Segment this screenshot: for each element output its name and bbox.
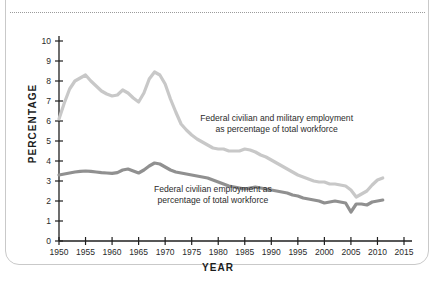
x-tick-label: 1955 [76,247,95,257]
y-tick-label: 1 [46,216,51,226]
x-axis-title: YEAR [0,262,436,273]
x-tick-label: 1980 [209,247,228,257]
y-tick-label: 0 [46,236,51,246]
chart-plot-area: 0123456789101950195519601965197019751980… [0,0,436,289]
x-tick-label: 1975 [182,247,201,257]
x-tick-label: 2005 [341,247,360,257]
series-line-total [59,72,383,197]
x-tick-label: 2010 [368,247,387,257]
y-tick-label: 6 [46,116,51,126]
y-axis-title: PERCENTAGE [27,64,38,184]
x-tick-label: 1970 [156,247,175,257]
y-tick-label: 8 [46,76,51,86]
x-tick-label: 1965 [129,247,148,257]
x-tick-label: 2000 [315,247,334,257]
y-tick-label: 7 [46,96,51,106]
x-tick-label: 1950 [50,247,69,257]
y-tick-label: 4 [46,156,51,166]
y-tick-label: 3 [46,176,51,186]
y-tick-label: 5 [46,136,51,146]
x-tick-label: 1985 [235,247,254,257]
lower-series-annotation-line2: percentage of total workforce [158,195,269,205]
x-tick-label: 1960 [103,247,122,257]
x-tick-label: 2015 [395,247,414,257]
y-tick-label: 9 [46,56,51,66]
lower-series-annotation-line1: Federal civilian employment as [154,184,272,194]
line-chart: 0123456789101950195519601965197019751980… [0,0,436,289]
upper-series-annotation-line1: Federal civilian and military employment [200,113,353,123]
x-tick-label: 1990 [262,247,281,257]
y-tick-label: 2 [46,196,51,206]
page-root: 0123456789101950195519601965197019751980… [0,0,436,289]
y-tick-label: 10 [42,36,52,46]
upper-series-annotation-line2: as percentage of total workforce [215,124,338,134]
x-tick-label: 1995 [288,247,307,257]
